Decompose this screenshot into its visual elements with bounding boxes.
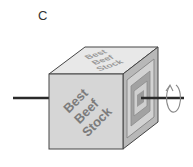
cube-diagram: Best Beef Stock Best Beef Stock xyxy=(0,0,193,167)
diagram-panel-c: C Best Beef Stock Best Beef Stock xyxy=(0,0,193,167)
